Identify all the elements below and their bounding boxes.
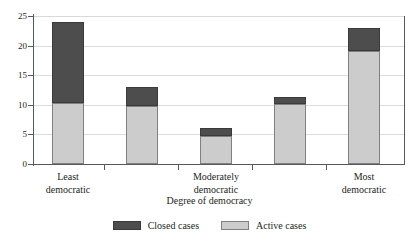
- x-category-label-moderately-democratic-line1: Moderately: [168, 170, 264, 183]
- bar-segment-active-2: [126, 106, 158, 164]
- legend-entry-active-cases: Active cases: [221, 219, 306, 232]
- y-tick-mark-5: [28, 134, 34, 135]
- bar-segment-closed-2: [126, 87, 158, 106]
- bar-segment-closed-1: [52, 22, 84, 103]
- y-tick-mark-10: [28, 105, 34, 106]
- stacked-bar-chart: 25 20 15 10 5 0 Least democratic Moderat…: [0, 0, 419, 243]
- x-axis-line: [33, 164, 405, 165]
- bar-group-least-democratic: [52, 16, 84, 164]
- y-axis-line: [33, 14, 34, 166]
- x-category-label-least-democratic: Least democratic: [20, 170, 116, 196]
- bar-segment-active-4: [274, 104, 306, 164]
- bar-segment-active-5: [348, 51, 380, 164]
- y-tick-label-15: 15: [18, 71, 27, 80]
- x-axis-title: Degree of democracy: [0, 194, 419, 207]
- bar-segment-closed-5: [348, 28, 380, 51]
- y-tick-label-10: 10: [18, 101, 27, 110]
- x-category-label-most-democratic-line1: Most: [316, 170, 412, 183]
- legend-swatch-closed-cases: [113, 221, 141, 230]
- y-tick-mark-15: [28, 75, 34, 76]
- bar-segment-closed-4: [274, 97, 306, 104]
- legend-label-closed-cases: Closed cases: [148, 219, 199, 232]
- bar-segment-active-3: [200, 136, 232, 164]
- plot-frame-right: [404, 16, 405, 165]
- y-tick-label-5: 5: [23, 130, 28, 139]
- bar-segment-closed-3: [200, 128, 232, 136]
- y-tick-label-25: 25: [18, 12, 27, 21]
- bar-group-moderately-democratic: [200, 16, 232, 164]
- legend-entry-closed-cases: Closed cases: [113, 219, 199, 232]
- y-tick-mark-25: [28, 16, 34, 17]
- bar-group-2: [126, 16, 158, 164]
- bar-group-most-democratic: [348, 16, 380, 164]
- x-category-label-least-democratic-line1: Least: [20, 170, 116, 183]
- x-category-label-moderately-democratic: Moderately democratic: [168, 170, 264, 196]
- legend-swatch-active-cases: [221, 221, 249, 230]
- legend-label-active-cases: Active cases: [256, 219, 306, 232]
- bar-group-4: [274, 16, 306, 164]
- bar-segment-active-1: [52, 103, 84, 164]
- y-tick-mark-0: [28, 164, 34, 165]
- y-tick-label-0: 0: [23, 160, 28, 169]
- x-category-label-most-democratic: Most democratic: [316, 170, 412, 196]
- y-tick-mark-20: [28, 46, 34, 47]
- chart-legend: Closed cases Active cases: [0, 219, 419, 232]
- y-tick-label-20: 20: [18, 42, 27, 51]
